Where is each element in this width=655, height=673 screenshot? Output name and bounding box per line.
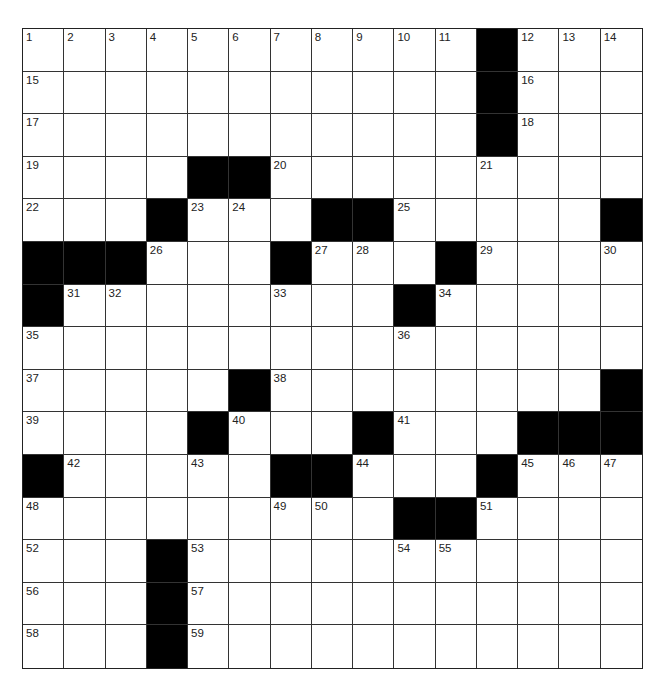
grid-cell[interactable] (436, 327, 477, 370)
grid-cell[interactable]: 58 (23, 625, 64, 668)
grid-cell[interactable] (188, 114, 229, 157)
grid-cell[interactable]: 44 (353, 455, 394, 498)
grid-cell[interactable] (394, 114, 435, 157)
grid-cell[interactable]: 47 (601, 455, 642, 498)
grid-cell[interactable]: 59 (188, 625, 229, 668)
grid-cell[interactable] (518, 242, 559, 285)
grid-cell[interactable]: 39 (23, 412, 64, 455)
grid-cell[interactable] (271, 583, 312, 626)
grid-cell[interactable]: 21 (477, 157, 518, 200)
grid-cell[interactable] (518, 199, 559, 242)
grid-cell[interactable] (188, 72, 229, 115)
grid-cell[interactable] (353, 327, 394, 370)
grid-cell[interactable] (394, 157, 435, 200)
grid-cell[interactable] (477, 625, 518, 668)
grid-cell[interactable] (518, 625, 559, 668)
grid-cell[interactable] (106, 114, 147, 157)
grid-cell[interactable]: 28 (353, 242, 394, 285)
grid-cell[interactable] (229, 242, 270, 285)
grid-cell[interactable] (106, 540, 147, 583)
grid-cell[interactable] (312, 114, 353, 157)
grid-cell[interactable]: 53 (188, 540, 229, 583)
grid-cell[interactable] (106, 157, 147, 200)
grid-cell[interactable]: 54 (394, 540, 435, 583)
grid-cell[interactable]: 11 (436, 29, 477, 72)
grid-cell[interactable]: 20 (271, 157, 312, 200)
grid-cell[interactable] (106, 583, 147, 626)
grid-cell[interactable] (271, 412, 312, 455)
grid-cell[interactable] (353, 157, 394, 200)
grid-cell[interactable]: 23 (188, 199, 229, 242)
grid-cell[interactable] (394, 370, 435, 413)
grid-cell[interactable] (64, 157, 105, 200)
grid-cell[interactable] (106, 370, 147, 413)
grid-cell[interactable] (64, 540, 105, 583)
grid-cell[interactable] (64, 625, 105, 668)
grid-cell[interactable] (312, 157, 353, 200)
grid-cell[interactable] (147, 370, 188, 413)
grid-cell[interactable] (436, 72, 477, 115)
grid-cell[interactable] (353, 370, 394, 413)
grid-cell[interactable] (64, 370, 105, 413)
grid-cell[interactable]: 48 (23, 498, 64, 541)
grid-cell[interactable] (601, 583, 642, 626)
grid-cell[interactable] (436, 583, 477, 626)
grid-cell[interactable] (518, 540, 559, 583)
grid-cell[interactable] (147, 327, 188, 370)
grid-cell[interactable]: 38 (271, 370, 312, 413)
grid-cell[interactable]: 1 (23, 29, 64, 72)
grid-cell[interactable] (312, 412, 353, 455)
grid-cell[interactable] (64, 72, 105, 115)
grid-cell[interactable] (312, 72, 353, 115)
grid-cell[interactable] (436, 370, 477, 413)
grid-cell[interactable] (477, 327, 518, 370)
grid-cell[interactable]: 45 (518, 455, 559, 498)
grid-cell[interactable]: 25 (394, 199, 435, 242)
grid-cell[interactable] (271, 540, 312, 583)
grid-cell[interactable] (477, 412, 518, 455)
grid-cell[interactable] (106, 199, 147, 242)
grid-cell[interactable] (518, 498, 559, 541)
grid-cell[interactable] (559, 72, 600, 115)
grid-cell[interactable] (229, 625, 270, 668)
grid-cell[interactable] (188, 370, 229, 413)
grid-cell[interactable]: 49 (271, 498, 312, 541)
grid-cell[interactable]: 10 (394, 29, 435, 72)
grid-cell[interactable] (312, 540, 353, 583)
grid-cell[interactable]: 15 (23, 72, 64, 115)
grid-cell[interactable] (477, 370, 518, 413)
grid-cell[interactable]: 50 (312, 498, 353, 541)
grid-cell[interactable] (518, 157, 559, 200)
grid-cell[interactable] (229, 285, 270, 328)
grid-cell[interactable] (188, 285, 229, 328)
grid-cell[interactable]: 31 (64, 285, 105, 328)
grid-cell[interactable]: 27 (312, 242, 353, 285)
grid-cell[interactable] (559, 583, 600, 626)
grid-cell[interactable] (353, 285, 394, 328)
grid-cell[interactable]: 36 (394, 327, 435, 370)
grid-cell[interactable]: 12 (518, 29, 559, 72)
grid-cell[interactable] (559, 540, 600, 583)
grid-cell[interactable] (229, 540, 270, 583)
grid-cell[interactable]: 24 (229, 199, 270, 242)
grid-cell[interactable]: 14 (601, 29, 642, 72)
grid-cell[interactable] (601, 285, 642, 328)
grid-cell[interactable] (271, 327, 312, 370)
grid-cell[interactable] (64, 114, 105, 157)
grid-cell[interactable] (353, 540, 394, 583)
grid-cell[interactable] (518, 370, 559, 413)
grid-cell[interactable] (559, 114, 600, 157)
grid-cell[interactable]: 26 (147, 242, 188, 285)
grid-cell[interactable]: 9 (353, 29, 394, 72)
grid-cell[interactable] (147, 114, 188, 157)
grid-cell[interactable] (229, 498, 270, 541)
grid-cell[interactable]: 40 (229, 412, 270, 455)
grid-cell[interactable] (353, 625, 394, 668)
grid-cell[interactable] (559, 327, 600, 370)
grid-cell[interactable]: 22 (23, 199, 64, 242)
grid-cell[interactable]: 30 (601, 242, 642, 285)
grid-cell[interactable] (436, 625, 477, 668)
grid-cell[interactable] (559, 199, 600, 242)
grid-cell[interactable] (147, 455, 188, 498)
grid-cell[interactable] (394, 455, 435, 498)
